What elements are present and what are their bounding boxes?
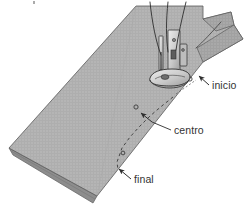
- centro-leader-line: [152, 122, 171, 130]
- scan-artifact: [33, 1, 35, 4]
- foot-slot: [171, 50, 176, 59]
- foot-needle-slot: [161, 75, 169, 80]
- bracket-screw: [182, 49, 185, 52]
- inicio-label: inicio: [212, 79, 237, 91]
- fabric-piece: [9, 6, 243, 203]
- centro-label: centro: [174, 124, 204, 136]
- foot-bracket: [180, 44, 187, 66]
- annotation-final: final: [119, 169, 154, 185]
- final-arrow: [119, 169, 131, 179]
- diagram-canvas: inicio centro final: [0, 0, 248, 207]
- annotation-inicio: inicio: [199, 76, 237, 91]
- presser-foot-sole: [150, 69, 190, 86]
- final-label: final: [134, 173, 154, 185]
- foot-screw: [172, 38, 175, 41]
- sewing-diagram-figure: inicio centro final: [0, 0, 248, 207]
- fabric-top-surface: [9, 6, 243, 196]
- inicio-arrow: [199, 76, 209, 85]
